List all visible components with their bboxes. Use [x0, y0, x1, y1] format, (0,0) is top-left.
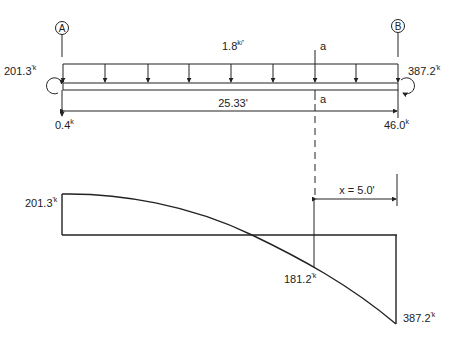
beam — [63, 83, 398, 90]
support-a-label: A — [59, 23, 66, 34]
moment-section-value: 181.2'k — [284, 272, 317, 285]
support-a-marker: A — [56, 22, 69, 58]
moment-left-value: 201.3'k — [25, 196, 58, 209]
x-dimension: x = 5.0' — [316, 174, 397, 206]
right-moment-value: 387.2'k — [408, 64, 441, 77]
span-value: 25.33' — [218, 97, 248, 109]
load-value: 1.8k/' — [222, 39, 244, 52]
moment-right-value: 387.2'k — [403, 311, 436, 324]
left-moment-value: 201.3'k — [4, 64, 37, 77]
right-end-moment: 387.2'k — [401, 64, 441, 94]
right-reaction-value: 46.0k — [384, 118, 409, 131]
x-dimension-value: x = 5.0' — [339, 184, 374, 196]
span-dimension: 25.33' — [64, 97, 397, 111]
left-reaction-value: 0.4k — [55, 118, 74, 131]
beam-diagram: A B 1.8k/' a a 201.3'k 387.2'k — [0, 0, 456, 344]
section-label-bottom: a — [320, 93, 327, 105]
distributed-load: 1.8k/' — [63, 39, 398, 82]
left-end-moment: 201.3'k — [4, 64, 60, 94]
support-b-marker: B — [392, 20, 405, 58]
moment-diagram: 201.3'k 181.2'k 387.2'k — [25, 194, 436, 324]
support-b-label: B — [395, 21, 402, 32]
section-label-top: a — [320, 40, 327, 52]
